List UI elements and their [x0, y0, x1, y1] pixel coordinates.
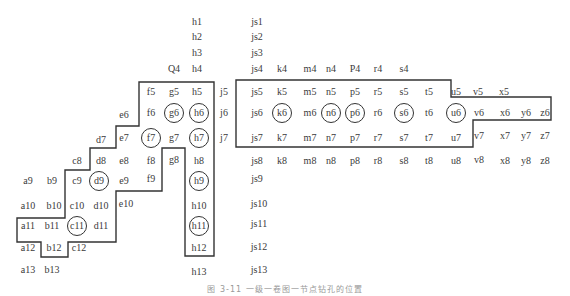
node-label-k8: k8 [277, 155, 287, 167]
node-label-z7: z7 [540, 130, 549, 142]
drilled-circle-icon [189, 103, 209, 123]
node-label-r5: r5 [374, 86, 382, 98]
boring-position-diagram: h1js1h2js2h3js3Q4h4js4k4m4n4P4r4s4f5g5h5… [0, 0, 570, 296]
node-label-js8: js8 [251, 155, 263, 167]
node-label-j5: j5 [220, 86, 228, 98]
node-label-g7: g7 [169, 132, 179, 144]
node-label-h13: h13 [192, 266, 207, 278]
node-label-s5: s5 [400, 86, 409, 98]
node-label-d11: d11 [94, 220, 109, 232]
node-label-p8: p8 [350, 155, 360, 167]
node-label-c8: c8 [72, 155, 81, 167]
node-label-js2: js2 [251, 31, 263, 43]
node-label-d10: d10 [94, 200, 109, 212]
node-label-e7: e7 [119, 132, 128, 144]
node-label-t8: t8 [425, 155, 433, 167]
node-label-t7: t7 [425, 132, 433, 144]
node-label-k5: k5 [277, 86, 287, 98]
node-label-a11: a11 [21, 220, 35, 232]
node-label-k7: k7 [277, 132, 287, 144]
node-label-js10: js10 [251, 198, 268, 210]
node-label-n4: n4 [326, 63, 336, 75]
node-label-y8: y8 [521, 155, 531, 167]
node-label-js9: js9 [251, 173, 263, 185]
node-label-v8: v8 [474, 154, 484, 166]
node-label-f6: f6 [147, 107, 155, 119]
node-label-d8: d8 [96, 155, 106, 167]
drilled-circle-icon [164, 103, 184, 123]
node-label-r8: r8 [374, 155, 382, 167]
drilled-circle-icon [394, 103, 414, 123]
node-label-p7: p7 [350, 132, 360, 144]
node-label-a9: a9 [23, 175, 32, 187]
node-label-h5: h5 [192, 86, 202, 98]
node-label-h2: h2 [192, 31, 202, 43]
node-label-n8: n8 [326, 155, 336, 167]
node-label-b12: b12 [47, 242, 62, 254]
node-label-v5: v5 [473, 86, 483, 98]
node-label-a13: a13 [21, 264, 35, 276]
node-label-t6: t6 [425, 107, 433, 119]
node-label-r7: r7 [374, 132, 382, 144]
drilled-circle-icon [189, 171, 209, 191]
node-label-u5: u5 [451, 86, 461, 98]
node-label-f5: f5 [147, 86, 155, 98]
node-label-v7: v7 [474, 130, 484, 142]
node-label-s7: s7 [400, 132, 409, 144]
node-label-js5: js5 [251, 86, 263, 98]
node-label-n7: n7 [326, 132, 336, 144]
node-label-c9: c9 [72, 175, 81, 187]
node-label-p5: p5 [350, 86, 360, 98]
node-label-p4: P4 [350, 63, 361, 75]
node-label-r4: r4 [374, 63, 382, 75]
node-label-e10: e10 [119, 198, 133, 210]
node-label-d7: d7 [96, 134, 106, 146]
node-label-b11: b11 [45, 220, 60, 232]
drilled-circle-icon [345, 103, 365, 123]
node-label-x5: x5 [499, 86, 509, 98]
node-label-m6: m6 [304, 107, 317, 119]
node-label-q4: Q4 [168, 63, 180, 75]
node-label-e8: e8 [119, 155, 128, 167]
node-label-t5: t5 [425, 86, 433, 98]
drilled-circle-icon [189, 128, 209, 148]
node-label-h1: h1 [192, 16, 202, 28]
node-label-m5: m5 [304, 86, 317, 98]
node-label-f9: f9 [147, 173, 155, 185]
node-label-j6: j6 [220, 107, 228, 119]
node-label-h3: h3 [192, 47, 202, 59]
node-label-x6: x6 [500, 107, 510, 119]
node-label-y7: y7 [521, 130, 531, 142]
drilled-circle-icon [321, 103, 341, 123]
node-label-b9: b9 [47, 175, 57, 187]
node-label-y6: y6 [521, 107, 531, 119]
node-label-h8: h8 [194, 155, 204, 167]
node-label-js7: js7 [251, 132, 263, 144]
drilled-circle-icon [189, 216, 209, 236]
node-label-m8: m8 [304, 155, 317, 167]
drilled-circle-icon [67, 216, 87, 236]
node-label-js12: js12 [251, 241, 268, 253]
node-label-js6: js6 [251, 107, 263, 119]
node-label-u8: u8 [451, 155, 461, 167]
node-label-x7: x7 [500, 130, 510, 142]
node-label-m7: m7 [304, 132, 317, 144]
node-label-g8: g8 [169, 154, 179, 166]
node-label-e6: e6 [119, 109, 128, 121]
node-label-u7: u7 [451, 132, 461, 144]
node-label-k4: k4 [277, 63, 287, 75]
node-label-h4: h4 [192, 63, 202, 75]
drilled-circle-icon [272, 103, 292, 123]
node-label-js4: js4 [251, 63, 263, 75]
node-label-h10: h10 [192, 200, 207, 212]
node-label-r6: r6 [374, 107, 382, 119]
node-label-v6: v6 [474, 107, 484, 119]
node-label-z8: z8 [540, 155, 549, 167]
drilled-circle-icon [446, 103, 466, 123]
node-label-a10: a10 [21, 200, 35, 212]
node-label-js11: js11 [251, 218, 267, 230]
node-label-z6: z6 [540, 107, 549, 119]
node-label-b10: b10 [47, 200, 62, 212]
node-label-s4: s4 [400, 63, 409, 75]
node-label-x8: x8 [500, 155, 510, 167]
